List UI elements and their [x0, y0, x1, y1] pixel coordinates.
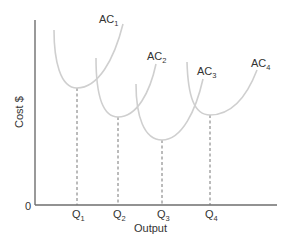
tick-q1: Q1 [72, 208, 85, 223]
ac2-curve [96, 58, 156, 117]
ac3-curve [136, 79, 203, 140]
ac3-label: AC3 [197, 65, 216, 80]
tick-q4: Q4 [205, 208, 218, 223]
ac2-label: AC2 [147, 50, 166, 65]
y-axis-title: Cost $ [13, 96, 25, 128]
tick-q3: Q3 [157, 208, 170, 223]
origin-label: 0 [25, 200, 31, 212]
ac4-label: AC4 [251, 57, 270, 72]
ac1-label: AC1 [99, 13, 118, 28]
ac1-curve [54, 24, 123, 88]
cost-curves-diagram: AC1 AC2 AC3 AC4 0 Q1 Q2 Q3 Q4 Output Cos… [0, 0, 290, 243]
tick-q2: Q2 [113, 208, 126, 223]
x-axis-title: Output [134, 222, 167, 234]
